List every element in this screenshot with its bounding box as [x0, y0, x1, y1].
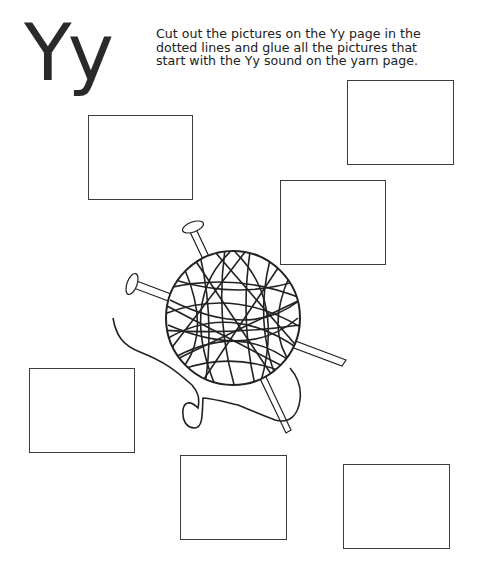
- yarn-ball-illustration: [0, 0, 477, 573]
- yarn-ball-icon: [160, 250, 305, 388]
